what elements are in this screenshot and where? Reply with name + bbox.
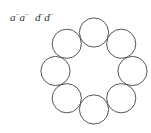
circle-ring-diagram [0,0,151,133]
ring-circle-5 [79,95,108,124]
ring-circle-8 [52,29,81,58]
ring-circle-7 [41,56,70,85]
ring-circle-1 [79,18,108,47]
ring-circle-2 [107,29,136,58]
ring-circle-3 [118,56,147,85]
ring-circle-4 [107,84,136,113]
ring-circle-6 [52,84,81,113]
